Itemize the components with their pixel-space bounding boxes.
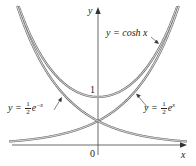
fraction-denominator: 2 [161,109,167,116]
fraction-denominator: 2 [25,109,31,116]
y-tick-one-label: 1 [90,85,95,95]
exp-neg-curve [18,7,187,142]
y-axis-label: y [88,6,92,16]
cosh-label: y = cosh x [106,28,147,38]
x-axis-label: x [181,150,185,160]
cosh-plot [0,0,196,166]
y-axis-arrow-icon [95,7,100,14]
exp-pos-label: y = 12ex [144,101,175,116]
exp-pos-power: x [172,102,175,108]
cosh-label-prefix: y = cosh [106,27,143,38]
exp-neg-prefix: y = [8,102,24,113]
x-axis-arrow-icon [180,142,187,147]
half-fraction: 12 [25,101,31,116]
exp-neg-power: −x [36,102,43,108]
origin-label: 0 [90,149,95,159]
exp-pos-curve [10,7,179,142]
exp-pos-prefix: y = [144,102,160,113]
half-fraction: 12 [161,101,167,116]
exp-neg-label: y = 12e−x [8,101,43,116]
exp-pos-curve [10,7,179,142]
exp-neg-curve [18,7,187,142]
cosh-label-var: x [143,27,147,38]
